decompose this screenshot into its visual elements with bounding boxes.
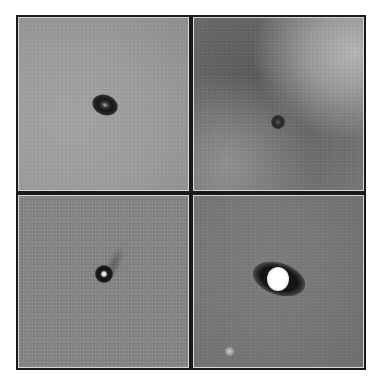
noise-texture — [194, 18, 363, 190]
dark-spot — [95, 265, 113, 283]
image-grid-frame — [16, 15, 366, 370]
bright-core — [267, 267, 289, 291]
panel-bottom-left — [18, 195, 189, 368]
panel-top-left — [18, 17, 189, 191]
faint-bright-dot — [225, 347, 234, 356]
panel-top-right — [193, 17, 364, 191]
dark-spot — [271, 115, 285, 129]
panel-bottom-right — [193, 195, 364, 368]
